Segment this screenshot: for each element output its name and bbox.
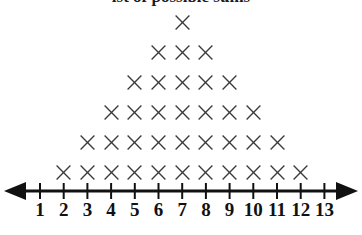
data-mark-x <box>125 163 144 182</box>
data-mark-x <box>244 163 263 182</box>
data-mark-x <box>149 43 168 62</box>
axis-tick-label: 1 <box>35 200 45 219</box>
data-mark-x <box>196 133 215 152</box>
data-mark-x <box>220 103 239 122</box>
data-mark-x <box>125 103 144 122</box>
axis-tick-label: 13 <box>315 200 334 219</box>
data-mark-x <box>244 133 263 152</box>
data-mark-x <box>78 133 97 152</box>
axis-tick-label: 4 <box>106 200 116 219</box>
data-mark-x <box>173 163 192 182</box>
data-mark-x <box>149 73 168 92</box>
data-mark-x <box>149 133 168 152</box>
axis-tick-label: 2 <box>59 200 69 219</box>
axis-tick-label: 5 <box>130 200 140 219</box>
data-mark-x <box>220 133 239 152</box>
axis-tick-label: 6 <box>154 200 164 219</box>
data-mark-x <box>173 13 192 32</box>
dot-plot-figure: ist of possible sums 12345678910111213 <box>0 0 362 235</box>
axis-tick-label: 12 <box>291 200 310 219</box>
data-mark-x <box>196 43 215 62</box>
data-mark-x <box>173 103 192 122</box>
data-mark-x <box>149 103 168 122</box>
axis-tick-label: 10 <box>244 200 263 219</box>
data-mark-x <box>173 43 192 62</box>
data-mark-x <box>268 163 287 182</box>
data-mark-x <box>268 133 287 152</box>
data-mark-x <box>196 103 215 122</box>
data-mark-x <box>102 103 121 122</box>
dot-plot-marks-area <box>0 0 362 190</box>
axis-tick-label: 9 <box>225 200 235 219</box>
data-mark-x <box>220 73 239 92</box>
data-mark-x <box>196 73 215 92</box>
data-mark-x <box>244 103 263 122</box>
axis-tick-label: 11 <box>268 200 286 219</box>
data-mark-x <box>125 133 144 152</box>
data-mark-x <box>102 133 121 152</box>
data-mark-x <box>220 163 239 182</box>
data-mark-x <box>291 163 310 182</box>
data-mark-x <box>102 163 121 182</box>
data-mark-x <box>78 163 97 182</box>
axis-tick-label: 7 <box>177 200 187 219</box>
data-mark-x <box>196 163 215 182</box>
data-mark-x <box>173 133 192 152</box>
data-mark-x <box>149 163 168 182</box>
data-mark-x <box>54 163 73 182</box>
axis-tick-label: 3 <box>83 200 93 219</box>
axis-tick-label: 8 <box>201 200 211 219</box>
data-mark-x <box>125 73 144 92</box>
data-mark-x <box>173 73 192 92</box>
